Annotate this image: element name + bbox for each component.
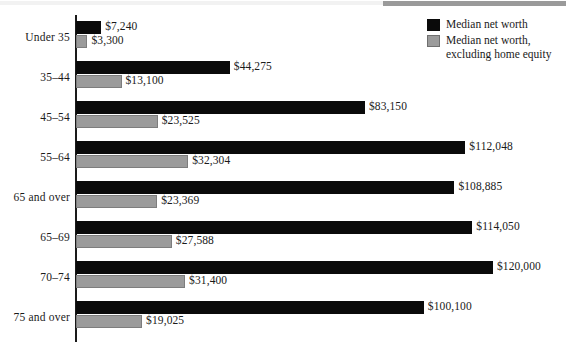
bar-value-label: $13,100 bbox=[126, 74, 164, 86]
bar-value-label: $3,300 bbox=[91, 34, 123, 46]
category-label: 65 and over bbox=[0, 191, 70, 203]
category-label: 65–69 bbox=[0, 231, 70, 243]
bar-median-net-worth bbox=[76, 21, 101, 34]
category-label: 35–44 bbox=[0, 71, 70, 83]
bar-value-label: $32,304 bbox=[192, 154, 230, 166]
legend-swatch-dark-icon bbox=[427, 19, 440, 31]
category-label: 75 and over bbox=[0, 311, 70, 323]
bar-median-net-worth-excluding-home-equity bbox=[76, 155, 188, 168]
bar-median-net-worth bbox=[76, 261, 493, 274]
category-label: 55–64 bbox=[0, 151, 70, 163]
chart-page: Under 35$7,240$3,30035–44$44,275$13,1004… bbox=[0, 0, 566, 352]
legend-item-median-net-worth-excluding-home-equity: Median net worth, excluding home equity bbox=[427, 34, 566, 61]
bar-median-net-worth-excluding-home-equity bbox=[76, 275, 185, 288]
category-label: Under 35 bbox=[0, 31, 70, 43]
legend-item-median-net-worth: Median net worth bbox=[427, 18, 566, 32]
bar-value-label: $27,588 bbox=[176, 234, 214, 246]
legend-label-2: Median net worth, bbox=[446, 34, 566, 48]
bar-value-label: $7,240 bbox=[105, 20, 137, 32]
legend-label-1: Median net worth bbox=[446, 18, 566, 32]
bar-value-label: $112,048 bbox=[469, 140, 513, 152]
bar-value-label: $19,025 bbox=[146, 314, 184, 326]
bar-median-net-worth bbox=[76, 221, 472, 234]
bar-median-net-worth bbox=[76, 301, 424, 314]
bar-median-net-worth bbox=[76, 101, 365, 114]
bar-median-net-worth bbox=[76, 61, 230, 74]
bar-value-label: $83,150 bbox=[369, 100, 407, 112]
legend-label-2-line2: excluding home equity bbox=[446, 48, 566, 62]
bar-median-net-worth-excluding-home-equity bbox=[76, 75, 122, 88]
bar-median-net-worth-excluding-home-equity bbox=[76, 115, 158, 128]
bar-median-net-worth bbox=[76, 141, 465, 154]
bar-value-label: $44,275 bbox=[234, 60, 272, 72]
category-label: 45–54 bbox=[0, 111, 70, 123]
bar-value-label: $120,000 bbox=[497, 260, 541, 272]
bar-value-label: $114,050 bbox=[476, 220, 520, 232]
bar-median-net-worth-excluding-home-equity bbox=[76, 315, 142, 328]
bar-value-label: $31,400 bbox=[189, 274, 227, 286]
bar-median-net-worth bbox=[76, 181, 454, 194]
bar-value-label: $100,100 bbox=[428, 300, 472, 312]
bar-median-net-worth-excluding-home-equity bbox=[76, 195, 157, 208]
bar-value-label: $23,525 bbox=[162, 114, 200, 126]
category-label: 70–74 bbox=[0, 271, 70, 283]
bar-median-net-worth-excluding-home-equity bbox=[76, 235, 172, 248]
bar-value-label: $23,369 bbox=[161, 194, 199, 206]
chart-legend: Median net worth Median net worth, exclu… bbox=[427, 18, 566, 63]
bar-median-net-worth-excluding-home-equity bbox=[76, 35, 87, 48]
legend-swatch-light-icon bbox=[427, 35, 440, 47]
bar-value-label: $108,885 bbox=[458, 180, 502, 192]
